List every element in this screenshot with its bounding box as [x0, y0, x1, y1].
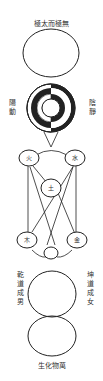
- myriad-things-circle: [28, 316, 76, 356]
- yin-yang-circle: [27, 84, 75, 132]
- connector-triangle: [44, 132, 58, 147]
- fire-label: 火: [23, 154, 35, 162]
- myriad-things-title: 生化物萬: [0, 362, 103, 371]
- union-circle: [44, 247, 58, 259]
- wood-label: 木: [21, 236, 33, 244]
- kun-dao-label: 坤道成女: [86, 271, 94, 307]
- water-label: 水: [69, 154, 81, 162]
- yang-movement-label: 陽動: [8, 99, 16, 117]
- qian-dao-label: 乾道成男: [16, 271, 24, 307]
- yin-stillness-label: 陰靜: [88, 99, 96, 117]
- qian-kun-circle: [28, 271, 76, 317]
- earth-label: 土: [45, 184, 57, 192]
- wuji-circle: [23, 29, 79, 77]
- metal-label: 金: [71, 236, 83, 244]
